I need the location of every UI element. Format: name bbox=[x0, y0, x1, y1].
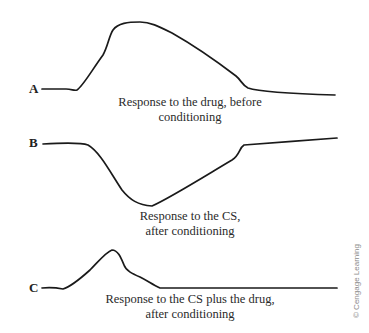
curve-b-cs-after-conditioning bbox=[43, 138, 337, 206]
curve-c-cs-plus-drug-after-conditioning bbox=[42, 250, 337, 289]
conditioning-figure: A Response to the drug, before condition… bbox=[0, 0, 369, 333]
panel-label-b: B bbox=[29, 135, 38, 151]
panel-label-a: A bbox=[29, 81, 38, 97]
caption-b-line1: Response to the CS, bbox=[70, 209, 310, 224]
copyright-notice: © Cengage Learning bbox=[352, 244, 361, 318]
caption-a: Response to the drug, before conditionin… bbox=[70, 95, 310, 125]
caption-c: Response to the CS plus the drug, after … bbox=[70, 292, 310, 322]
caption-b: Response to the CS, after conditioning bbox=[70, 209, 310, 239]
caption-c-line1: Response to the CS plus the drug, bbox=[70, 292, 310, 307]
response-curves bbox=[0, 0, 369, 333]
caption-c-line2: after conditioning bbox=[70, 307, 310, 322]
caption-a-line1: Response to the drug, before bbox=[70, 95, 310, 110]
curve-a-drug-before-conditioning bbox=[42, 22, 335, 95]
caption-a-line2: conditioning bbox=[70, 110, 310, 125]
panel-label-c: C bbox=[29, 280, 38, 296]
caption-b-line2: after conditioning bbox=[70, 224, 310, 239]
